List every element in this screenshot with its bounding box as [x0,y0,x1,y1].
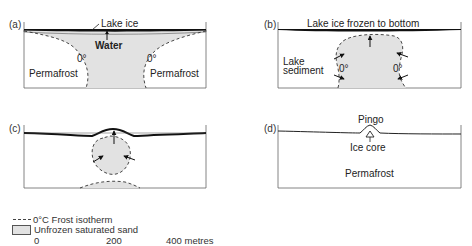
panel-b-isotherm-right-label: 0° [393,63,403,74]
panel-c-lower-unfrozen-sand [80,181,140,188]
panel-a-label: (a) [9,19,21,30]
panel-b-isotherm-left-label: 0° [339,63,349,74]
panel-a-isotherm-right-label: 0° [147,53,157,64]
panel-b-unfrozen-sand [336,34,406,88]
panel-b-lake-ice [278,29,461,32]
panel-a-permafrost-right-label: Permafrost [150,68,199,79]
panel-b-label: (b) [264,19,276,30]
scale-tick-0: 0 [12,235,106,246]
panel-c: (c) [9,123,206,188]
panel-d: (d) Pingo Ice core Permafrost [264,114,461,188]
scale-tick-200: 200 [106,235,166,246]
panel-c-ice-surface [24,129,206,136]
dashed-line-icon [13,219,31,220]
scale-bar: 0 200 400 metres [12,235,214,246]
panel-d-label: (d) [264,123,276,134]
panel-c-label: (c) [9,123,21,134]
panel-b-ice-label: Lake ice frozen to bottom [307,18,419,29]
panel-a: (a) Lake ice Water 0° 0° Permafrost Perm… [9,18,206,88]
panel-a-isotherm-left-label: 0° [77,53,87,64]
panel-d-ice-core [366,131,374,137]
panel-d-permafrost-label: Permafrost [345,168,394,179]
legend-isotherm: 0°C Frost isotherm [12,214,214,225]
panel-b-sediment-label-2: sediment [283,65,324,76]
panel-d-ice-core-label: Ice core [350,142,386,153]
legend-sand-label: Unfrozen saturated sand [34,224,138,235]
legend-sand: Unfrozen saturated sand [12,225,214,236]
panel-a-water-label: Water [95,40,123,51]
panel-b: (b) Lake ice frozen to bottom Lake sedim… [264,18,461,88]
panel-a-permafrost-left-label: Permafrost [29,68,78,79]
panel-c-unfrozen-sand [92,136,130,174]
legend: 0°C Frost isotherm Unfrozen saturated sa… [12,214,214,246]
scale-tick-400: 400 metres [166,235,214,246]
legend-isotherm-label: 0°C Frost isotherm [33,214,112,225]
panel-a-ice-label: Lake ice [101,18,139,29]
sand-swatch-icon [12,225,31,235]
panel-d-pingo-label: Pingo [358,114,384,125]
